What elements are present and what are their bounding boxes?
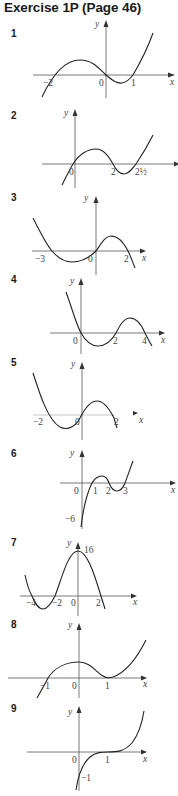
y-axis-label: y — [70, 359, 76, 369]
x-axis-label: x — [141, 253, 147, 263]
tick-label: −2 — [52, 598, 62, 608]
y-axis-label: y — [94, 19, 100, 29]
y-axis-label: y — [69, 448, 75, 458]
tick-label: 0 — [74, 486, 79, 496]
tick-label: 2 — [124, 254, 129, 264]
tick-label: 2 — [111, 167, 116, 177]
y-axis-label: y — [67, 707, 73, 717]
tick-label: 0 — [71, 598, 76, 608]
graphs-canvas: y x −2 0 1 y 0 2 2½ y x −3 0 2 y x — [0, 0, 178, 796]
tick-label: 2 — [106, 486, 111, 496]
graph-3: y x −3 0 2 — [32, 193, 147, 275]
tick-label: 1 — [105, 755, 110, 765]
y-axis-label: y — [63, 108, 69, 118]
tick-label: −4 — [26, 598, 36, 608]
tick-label: −1 — [40, 681, 50, 691]
tick-label: 3 — [123, 486, 128, 496]
graph-8: y x −1 0 1 — [8, 620, 148, 698]
tick-label: 0 — [69, 167, 74, 177]
tick-label: −2 — [33, 417, 43, 427]
x-axis-label: x — [170, 485, 176, 495]
tick-label: 0 — [73, 336, 78, 346]
tick-label: 0 — [72, 681, 77, 691]
graph-9: y x 0 1 −1 — [27, 706, 148, 791]
tick-label: 1 — [93, 486, 98, 496]
graph-2: y 0 2 2½ — [42, 108, 178, 188]
y-axis-label: y — [69, 276, 75, 286]
tick-label: 1 — [105, 681, 110, 691]
tick-label: 2 — [114, 417, 119, 427]
graph-4: y x 0 2 4 — [50, 276, 166, 354]
graph-7: y x −4 −2 0 2 16 — [20, 538, 138, 616]
tick-label: −1 — [81, 773, 91, 783]
x-axis-label: x — [142, 679, 148, 689]
x-axis-label: x — [160, 335, 166, 345]
graph-1: y x −2 0 1 — [33, 19, 175, 98]
tick-label: −6 — [65, 514, 75, 524]
tick-label: 1 — [131, 78, 136, 88]
tick-label: 4 — [142, 336, 147, 346]
tick-label: 2½ — [135, 167, 147, 177]
y-axis-label: y — [83, 193, 89, 203]
tick-label: 0 — [75, 417, 80, 427]
y-axis-label: y — [66, 538, 72, 548]
tick-label: −2 — [43, 78, 53, 88]
y-axis-label: y — [67, 620, 73, 630]
tick-label: 2 — [96, 598, 101, 608]
tick-label: −3 — [35, 254, 45, 264]
tick-label: 16 — [84, 545, 94, 555]
tick-label: 2 — [113, 336, 118, 346]
graph-6: y x 0 1 2 3 −6 — [60, 448, 176, 529]
x-axis-label: x — [169, 77, 175, 87]
tick-label: 0 — [88, 254, 93, 264]
x-axis-label: x — [138, 415, 144, 425]
tick-label: 0 — [72, 755, 77, 765]
x-axis-label: x — [132, 597, 138, 607]
x-axis-label: x — [142, 754, 148, 764]
graph-5: y x −2 0 2 — [33, 359, 144, 440]
tick-label: 0 — [99, 78, 104, 88]
